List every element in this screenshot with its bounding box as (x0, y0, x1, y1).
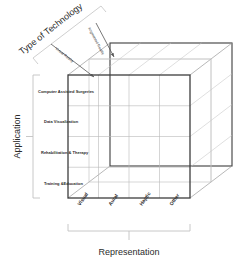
row-label-rehabilitation-therapy: Rehabilitation & Therapy (41, 150, 89, 155)
column-label-aural: Aural (107, 192, 120, 206)
back-face-outline (110, 43, 232, 166)
taxonomy-cube-svg: Type of Technology Virtual Reality Augme… (0, 0, 246, 266)
application-axis-label: Application (12, 114, 22, 158)
right-face-grid (190, 59, 232, 182)
column-label-other: Other (168, 192, 181, 206)
cube-depth-structure (68, 43, 232, 198)
representation-axis-label: Representation (98, 247, 159, 257)
row-label-training-education: Training &Education (44, 181, 83, 186)
cube-middle-layer (89, 59, 211, 182)
technology-axis-label: Type of Technology (17, 1, 85, 57)
row-label-data-visualization: Data Visualization (44, 119, 79, 124)
representation-axis-bracket (68, 224, 190, 240)
top-face-grid (89, 43, 211, 75)
row-label-computer-assisted-surgeries: Computer Assisted Surgeries (38, 89, 95, 94)
tech-bracket-cap-near (33, 58, 38, 64)
tech-bracket-cap-far (101, 6, 106, 12)
diagram-canvas: Type of Technology Virtual Reality Augme… (0, 0, 246, 266)
middle-face-outline (89, 59, 211, 182)
technology-layer-augmented-reality: Augmented Reality (87, 27, 105, 56)
technology-layer-virtual-reality: Virtual Reality (54, 47, 74, 64)
